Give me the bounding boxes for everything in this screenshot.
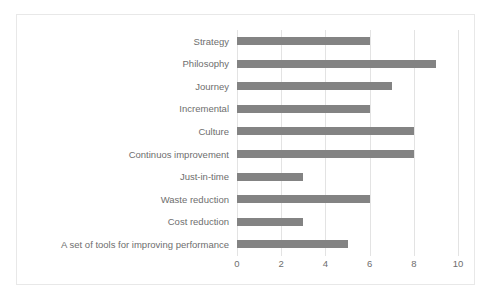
category-label-row: Just-in-time [28,166,229,189]
category-label-row: Continuos improvement [28,143,229,166]
bar[interactable] [237,240,348,248]
category-label-row: Waste reduction [28,188,229,211]
category-label-row: A set of tools for improving performance [28,233,229,256]
x-tick-label: 4 [323,259,328,269]
x-tick-label: 0 [234,259,239,269]
bar-row [237,120,458,143]
category-label: Waste reduction [161,195,229,205]
bar-row [237,98,458,121]
bar-row [237,166,458,189]
plot-area [237,30,458,256]
bar-row [237,75,458,98]
category-label: Culture [198,127,229,137]
x-tick-label: 2 [279,259,284,269]
bar[interactable] [237,60,436,68]
x-tick-label: 8 [411,259,416,269]
bar[interactable] [237,195,370,203]
x-tick-label: 6 [367,259,372,269]
bar[interactable] [237,82,392,90]
category-label-row: Philosophy [28,53,229,76]
category-label: A set of tools for improving performance [61,240,229,250]
bar-row [237,30,458,53]
value-axis-labels: 0246810 [237,259,458,275]
bar-series [237,30,458,256]
category-label-row: Culture [28,120,229,143]
bar-row [237,211,458,234]
category-label-row: Cost reduction [28,211,229,234]
category-label-row: Incremental [28,98,229,121]
bar[interactable] [237,173,303,181]
bar[interactable] [237,218,303,226]
bar[interactable] [237,150,414,158]
category-label-row: Strategy [28,30,229,53]
bar[interactable] [237,127,414,135]
category-label: Just-in-time [180,172,229,182]
bar[interactable] [237,37,370,45]
category-label: Journey [195,82,229,92]
bar-row [237,143,458,166]
category-axis-labels: StrategyPhilosophyJourneyIncrementalCult… [28,30,229,256]
category-label: Continuos improvement [129,150,229,160]
bar-row [237,188,458,211]
category-label: Philosophy [183,59,229,69]
chart-container: StrategyPhilosophyJourneyIncrementalCult… [16,14,475,285]
category-label-row: Journey [28,75,229,98]
category-label: Incremental [179,104,229,114]
category-label: Cost reduction [168,217,229,227]
gridline [458,30,459,256]
bar[interactable] [237,105,370,113]
x-tick-label: 10 [453,259,464,269]
bar-row [237,53,458,76]
bar-row [237,233,458,256]
category-label: Strategy [194,37,229,47]
